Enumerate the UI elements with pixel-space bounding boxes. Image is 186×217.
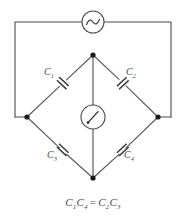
wire-arm-c2-upper [93, 55, 119, 79]
wire-arm-c3-upper [27, 117, 60, 148]
capacitor-c2-plate-b [119, 80, 129, 89]
galvanometer [81, 105, 105, 129]
wire-arm-c4-upper [126, 117, 158, 148]
wire-right-outer [104, 22, 171, 117]
capacitor-c1-plate-a [59, 77, 69, 86]
equation-operator: = [88, 196, 98, 208]
capacitor-label-c1: C1 [44, 67, 54, 80]
node-top [90, 52, 95, 57]
wire-arm-c2-lower [126, 86, 158, 117]
capacitor-label-c3: C3 [47, 150, 57, 163]
capacitance-bridge-figure: C1 C2 C3 C4 C1C4=C2C3 [0, 0, 186, 217]
balance-equation: C1C4=C2C3 [0, 196, 186, 211]
wire-arm-c1-upper [67, 55, 94, 80]
node-right [155, 114, 160, 119]
wire-arm-c4-lower [93, 154, 119, 178]
equation-right-term: C2C3 [98, 196, 121, 208]
ac-source [82, 11, 104, 33]
node-left [24, 114, 29, 119]
capacitor-label-c2: C2 [126, 67, 136, 80]
wire-arm-c3-lower [67, 154, 94, 178]
node-bottom [90, 175, 95, 180]
capacitor-label-c4: C4 [124, 150, 134, 163]
capacitor-c3-plate-a [57, 147, 67, 156]
capacitor-c3-plate-b [59, 144, 69, 153]
wire-arm-c1-lower [27, 86, 60, 117]
galvanometer-pivot [87, 121, 90, 124]
circuit-diagram [0, 0, 186, 217]
equation-left-term: C1C4 [65, 196, 88, 208]
